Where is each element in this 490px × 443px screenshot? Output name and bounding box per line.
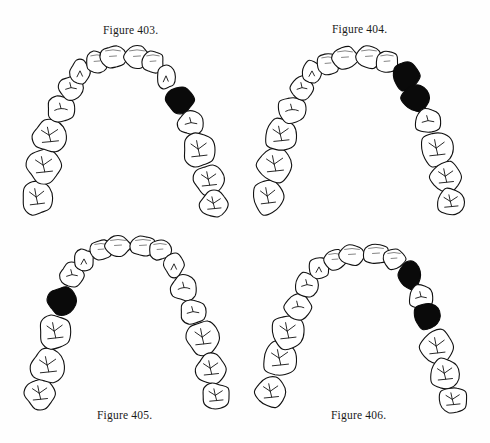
tooth-left-central-incisor	[100, 46, 127, 68]
figure-caption: Figure 403.	[103, 24, 158, 36]
tooth-right-molar-1	[419, 329, 453, 364]
tooth-left-molar-2	[26, 149, 62, 184]
tooth-left-premolar-2	[278, 98, 306, 124]
figure-406: Figure 406.	[245, 222, 490, 443]
tooth-right-canine	[163, 253, 184, 278]
tooth-left-molar-2	[30, 348, 64, 383]
figure-caption: Figure 405.	[97, 409, 152, 421]
tooth-right-premolar-2	[415, 109, 440, 133]
tooth-left-molar-3	[254, 377, 285, 408]
tooth-right-premolar-1	[165, 87, 194, 114]
figure-caption: Figure 406.	[331, 409, 386, 421]
tooth-left-molar-3	[253, 180, 284, 215]
figure-403: Figure 403.	[0, 0, 245, 221]
figure-404: Figure 404.	[245, 0, 490, 221]
tooth-right-molar-2	[431, 358, 460, 389]
tooth-right-premolar-2	[414, 304, 440, 330]
tooth-right-molar-1	[184, 133, 215, 167]
tooth-right-canine	[158, 65, 176, 89]
tooth-left-molar-1	[40, 315, 70, 349]
tooth-right-molar-2	[195, 353, 226, 384]
tooth-right-premolar-2	[181, 300, 206, 324]
tooth-left-molar-1	[32, 119, 66, 152]
tooth-left-molar-3	[23, 181, 52, 215]
figure-405: Figure 405.	[0, 222, 245, 443]
figure-caption: Figure 404.	[332, 23, 387, 35]
tooth-right-molar-1	[186, 321, 220, 356]
tooth-right-molar-3	[439, 388, 466, 413]
document-page: Figure 403. Figure 404. Figure 405. Figu…	[0, 0, 490, 443]
tooth-right-molar-3	[203, 383, 229, 409]
tooth-left-molar-2	[256, 148, 292, 183]
tooth-left-premolar-2	[47, 287, 76, 316]
tooth-right-premolar-1	[170, 275, 196, 301]
tooth-left-molar-3	[24, 379, 55, 410]
tooth-right-molar-3	[438, 188, 465, 215]
